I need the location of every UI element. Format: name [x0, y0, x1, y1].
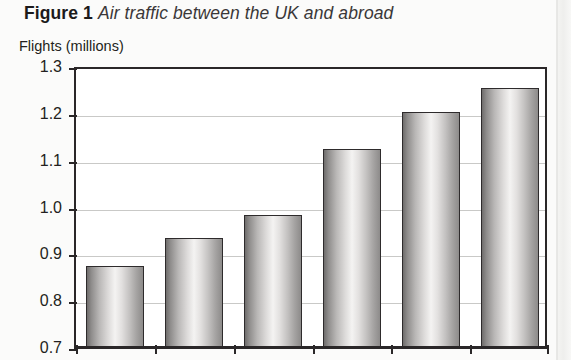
gridline	[76, 163, 545, 164]
y-axis-tick	[69, 162, 77, 164]
bar	[323, 149, 381, 346]
y-axis-tick	[69, 255, 77, 257]
y-axis-tick-label: 0.7	[16, 340, 62, 356]
gridline	[76, 210, 545, 211]
y-axis-tick	[69, 209, 77, 211]
y-axis-tick	[69, 302, 77, 304]
bar	[402, 112, 460, 346]
y-axis-tick-label: 1.2	[16, 106, 62, 122]
y-axis-tick	[69, 115, 77, 117]
gridline	[76, 116, 545, 117]
bar	[244, 215, 302, 346]
gridline	[76, 303, 545, 304]
x-axis-tick	[547, 345, 549, 354]
y-axis-tick-label: 0.8	[16, 293, 62, 309]
y-axis-tick-label: 1.1	[16, 153, 62, 169]
gridline	[76, 256, 545, 257]
y-axis-tick-label: 1.0	[16, 200, 62, 216]
plot-area	[74, 67, 547, 348]
bar	[165, 238, 223, 346]
bar	[481, 88, 539, 346]
bar-chart: 1.31.21.11.00.90.80.7	[0, 0, 571, 360]
x-axis-line	[74, 346, 547, 349]
y-axis-tick-label: 0.9	[16, 246, 62, 262]
y-axis-tick	[69, 68, 77, 70]
y-axis-tick-label: 1.3	[16, 59, 62, 75]
figure-page: Figure 1Air traffic between the UK and a…	[0, 0, 571, 360]
bar	[86, 266, 144, 346]
